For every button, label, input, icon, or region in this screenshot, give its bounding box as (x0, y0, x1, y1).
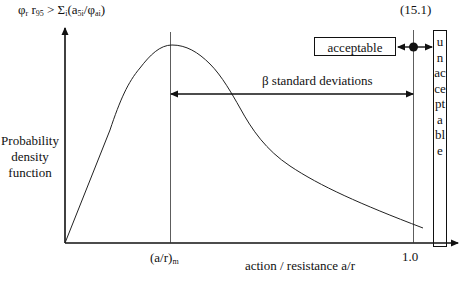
x-tick-one: 1.0 (402, 249, 418, 265)
formula-r: r (28, 2, 36, 17)
x-axis-label: action / resistance a/r (230, 258, 370, 273)
beta-label: β standard deviations (262, 73, 373, 89)
x-tick-mean-text: (a/r) (150, 250, 172, 265)
formula-sum: > Σ (44, 2, 65, 17)
x-tick-mean: (a/r)m (150, 250, 179, 266)
unacceptable-box: unacceptable (433, 30, 447, 247)
x-tick-mean-sub: m (172, 257, 178, 266)
formula-phi-a: /φ (84, 2, 95, 17)
limit-point (409, 43, 418, 52)
formula-sub: 95 (36, 9, 44, 18)
formula-a: (a (67, 2, 77, 17)
formula-phi: φ (18, 2, 26, 17)
acceptable-box: acceptable (314, 37, 396, 56)
formula-close: ) (101, 2, 105, 17)
equation-number: (15.1) (400, 2, 431, 18)
safety-formula: φr r95 > Σi(a5i/φai) (18, 2, 105, 18)
y-axis-label: Probability density function (0, 133, 60, 181)
